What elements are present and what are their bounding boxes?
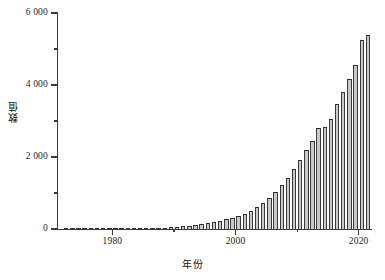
bar — [366, 35, 370, 229]
bar — [230, 218, 234, 229]
plot-area — [57, 13, 371, 229]
x-axis-tick-label: 2000 — [214, 236, 258, 246]
x-axis-tick-label: 2020 — [337, 236, 381, 246]
bar — [261, 203, 265, 229]
bar — [267, 198, 271, 229]
y-axis-tick — [51, 84, 57, 85]
y-axis-tick-label: 0 — [0, 223, 48, 233]
bar — [273, 192, 277, 229]
bar-series — [57, 13, 371, 229]
bar — [243, 214, 247, 229]
y-axis-tick — [51, 156, 57, 157]
y-axis-tick-label: 2 000 — [0, 151, 48, 161]
bar — [360, 40, 364, 229]
bar — [347, 79, 351, 229]
bar — [335, 104, 339, 229]
bar — [310, 141, 314, 229]
y-axis-minor-tick — [54, 192, 57, 193]
bar — [329, 119, 333, 229]
x-axis-tick-label: 1980 — [90, 236, 134, 246]
bar-chart-figure: 02 0004 0006 000 198020002020 数值 年份 — [0, 0, 385, 280]
x-axis-tick — [358, 229, 359, 235]
y-axis-title: 数值 — [8, 101, 22, 123]
bar — [353, 65, 357, 229]
bar — [316, 128, 320, 229]
bar — [280, 185, 284, 229]
x-axis-minor-tick — [297, 229, 298, 232]
bar — [286, 178, 290, 229]
bar — [236, 216, 240, 229]
bar — [292, 169, 296, 229]
y-axis-tick — [51, 228, 57, 229]
x-axis-line — [57, 229, 372, 230]
y-axis-minor-tick — [54, 48, 57, 49]
x-axis-minor-tick — [173, 229, 174, 232]
bar — [341, 92, 345, 229]
y-axis-tick-label: 4 000 — [0, 79, 48, 89]
bar — [304, 150, 308, 229]
y-axis-minor-tick — [54, 120, 57, 121]
y-axis-tick — [51, 12, 57, 13]
x-axis-tick — [235, 229, 236, 235]
y-axis-tick-label: 6 000 — [0, 7, 48, 17]
bar — [298, 160, 302, 229]
bar — [249, 211, 253, 229]
bar — [323, 127, 327, 229]
bar — [255, 207, 259, 229]
x-axis-tick — [112, 229, 113, 235]
x-axis-title: 年份 — [0, 256, 385, 271]
